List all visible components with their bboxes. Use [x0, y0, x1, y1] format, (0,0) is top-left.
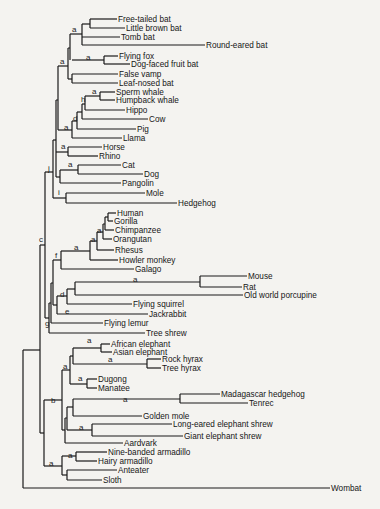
node-support-label: i [58, 188, 60, 197]
leaf-label: Nine-banded armadillo [108, 448, 191, 457]
node-support-label: a [64, 123, 69, 132]
leaf-label: Free-tailed bat [118, 15, 172, 24]
leaf-label: Pig [137, 125, 149, 134]
leaf-label: Tomb bat [121, 33, 155, 42]
leaf-label: Pangolin [122, 179, 154, 188]
leaf-label: Llama [123, 134, 146, 143]
node-support-label: g [45, 319, 49, 328]
leaf-label: Dog [144, 170, 159, 179]
leaf-label: Hedgehog [178, 199, 216, 208]
leaf-label: Dugong [98, 375, 127, 384]
node-support-label: a [79, 423, 84, 432]
leaf-label: Chimpanzee [115, 226, 161, 235]
leaf-label: Jackrabbit [149, 310, 187, 319]
leaf-label: Rhesus [115, 246, 143, 255]
leaf-label: Mouse [248, 272, 273, 281]
node-support-label: a [68, 160, 73, 169]
leaf-label: Tree hyrax [162, 364, 201, 373]
leaf-labels: Free-tailed batLittle brown batTomb batR… [98, 15, 362, 493]
leaf-label: Anteater [118, 466, 149, 475]
node-support-label: a [97, 226, 102, 235]
node-support-label: a [74, 243, 79, 252]
node-support-label: a [72, 25, 77, 34]
node-support-label: a [133, 275, 138, 284]
leaf-label: Asian elephant [113, 348, 168, 357]
leaf-label: Cat [122, 161, 135, 170]
node-support-label: a [49, 459, 54, 468]
node-support-label: a [68, 451, 73, 460]
leaf-label: False vamp [119, 70, 162, 79]
leaf-label: Rock hyrax [162, 355, 203, 364]
leaf-label: Tree shrew [146, 329, 187, 338]
leaf-label: Mole [146, 189, 164, 198]
node-support-label: a [63, 362, 68, 371]
leaf-label: Flying squirrel [133, 300, 184, 309]
node-support-label: a [86, 53, 91, 62]
leaf-label: Flying lemur [104, 319, 149, 328]
leaf-label: Leaf-nosed bat [119, 79, 174, 88]
leaf-label: Madagascar hedgehog [221, 390, 305, 399]
leaf-label: Tenrec [249, 399, 274, 408]
leaf-label: Orangutan [113, 235, 152, 244]
leaf-label: Old world porcupine [244, 291, 317, 300]
leaf-label: Humpback whale [116, 96, 179, 105]
node-support-label: a [87, 336, 92, 345]
node-support-label: a [60, 57, 65, 66]
leaf-label: Wombat [331, 484, 362, 493]
leaf-label: Gorilla [114, 217, 138, 226]
leaf-label: Giant elephant shrew [184, 432, 261, 441]
leaf-label: Cow [149, 115, 165, 124]
leaf-label: Hippo [126, 106, 148, 115]
leaf-label: Aardvark [124, 439, 158, 448]
node-support-label: a [78, 374, 83, 383]
node-support-label: a [91, 235, 96, 244]
leaf-label: Manatee [98, 384, 130, 393]
leaf-label: Galago [135, 265, 162, 274]
node-support-label: d [73, 114, 77, 123]
leaf-label: Round-eared bat [206, 41, 268, 50]
leaf-label: Little brown bat [126, 24, 182, 33]
node-support-label: a [61, 142, 66, 151]
node-support-label: j [47, 164, 50, 173]
leaf-label: Sloth [103, 476, 122, 485]
leaf-label: Dog-faced fruit bat [131, 60, 199, 69]
node-support-label: f [55, 251, 58, 260]
leaf-label: Long-eared elephant shrew [173, 420, 273, 429]
node-support-label: a [123, 395, 128, 404]
node-support-label: c [39, 235, 43, 244]
phylogenetic-tree: Free-tailed batLittle brown batTomb batR… [0, 0, 380, 509]
node-support-label: d [60, 290, 64, 299]
leaf-label: Howler monkey [119, 256, 176, 265]
node-support-label: e [65, 307, 70, 316]
node-support-label: a [108, 355, 113, 364]
node-support-label: h [81, 95, 85, 104]
node-support-label: a [92, 87, 97, 96]
node-support-label: b [51, 396, 56, 405]
leaf-label: Hairy armadillo [98, 457, 153, 466]
leaf-label: Rhino [99, 152, 121, 161]
leaf-label: Horse [103, 143, 125, 152]
